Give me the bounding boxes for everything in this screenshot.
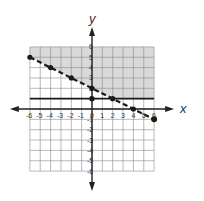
x-axis-arrow-left-icon xyxy=(10,106,19,112)
x-tick-label: -2 xyxy=(67,112,73,119)
x-tick-label: -1 xyxy=(78,112,84,119)
y-tick-label: -6 xyxy=(87,168,93,175)
data-point xyxy=(89,86,94,91)
data-point xyxy=(131,106,136,111)
x-tick-label: 3 xyxy=(121,112,125,119)
y-tick-label: -2 xyxy=(87,126,93,133)
y-tick-label: 6 xyxy=(89,43,93,50)
x-tick-label: -6 xyxy=(26,112,32,119)
x-tick-label: 2 xyxy=(111,112,115,119)
x-tick-label: 4 xyxy=(131,112,135,119)
y-tick-label: -1 xyxy=(87,116,93,123)
y-tick-label: -5 xyxy=(87,157,93,164)
data-point xyxy=(48,65,53,70)
x-tick-label: -3 xyxy=(57,112,63,119)
y-tick-label: 4 xyxy=(89,64,93,71)
data-point xyxy=(69,75,74,80)
x-tick-label: 1 xyxy=(100,112,104,119)
x-tick-label: -5 xyxy=(36,112,42,119)
data-point xyxy=(27,55,32,60)
y-axis-arrow-up-icon xyxy=(89,27,95,36)
coordinate-plane: xy-6-5-4-3-2-10123456654321-1-2-3-4-5-6 xyxy=(0,0,204,201)
data-point xyxy=(89,96,94,101)
y-axis-arrow-down-icon xyxy=(89,182,95,191)
y-tick-label: 5 xyxy=(89,54,93,61)
y-tick-label: -3 xyxy=(87,137,93,144)
y-tick-label: 3 xyxy=(89,74,93,81)
x-tick-label: -4 xyxy=(47,112,53,119)
x-axis-arrow-right-icon xyxy=(165,106,174,112)
data-point xyxy=(151,116,157,122)
y-tick-label: -4 xyxy=(87,147,93,154)
x-axis-label: x xyxy=(179,101,187,116)
y-axis-label: y xyxy=(88,11,97,26)
